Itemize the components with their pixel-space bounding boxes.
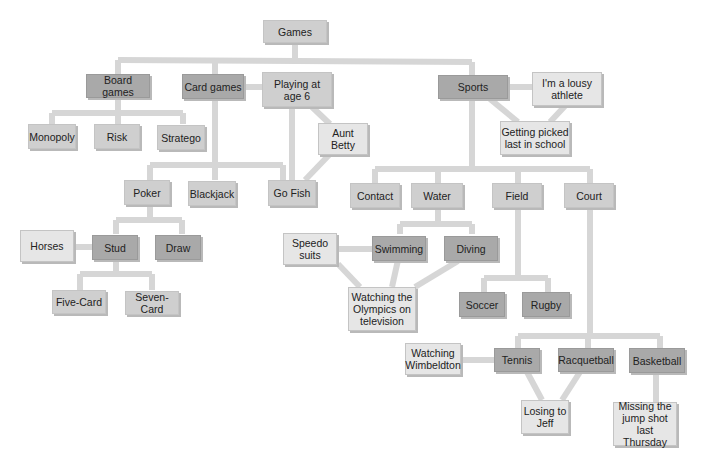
node-watching-wimbeldton: Watching Wimbeldton — [405, 343, 461, 375]
node-stratego: Stratego — [157, 125, 205, 150]
node-games: Games — [263, 20, 327, 43]
node-missing-jump-shot: Missing the jump shot last Thursday — [613, 402, 677, 446]
node-swimming: Swimming — [372, 236, 426, 261]
node-field: Field — [492, 183, 542, 208]
node-seven-card: Seven-Card — [125, 291, 179, 315]
node-water: Water — [411, 183, 463, 208]
node-five-card: Five-Card — [52, 290, 106, 314]
node-monopoly: Monopoly — [28, 124, 76, 149]
node-aunt-betty: Aunt Betty — [318, 123, 368, 155]
node-contact: Contact — [350, 183, 400, 208]
node-sports: Sports — [438, 75, 508, 99]
node-board-games: Board games — [86, 74, 150, 98]
node-draw: Draw — [155, 235, 201, 260]
node-lousy-athlete: I'm a lousy athlete — [532, 72, 602, 106]
node-risk: Risk — [94, 124, 140, 149]
node-rugby: Rugby — [522, 292, 570, 317]
node-poker: Poker — [124, 180, 170, 205]
node-go-fish: Go Fish — [268, 180, 316, 206]
node-basketball: Basketball — [629, 348, 685, 373]
node-losing-to-jeff: Losing to Jeff — [521, 400, 569, 434]
node-court: Court — [564, 183, 614, 208]
node-picked-last: Getting picked last in school — [500, 121, 570, 155]
node-speedo-suits: Speedo suits — [283, 233, 337, 265]
node-soccer: Soccer — [459, 292, 505, 317]
node-tennis: Tennis — [494, 348, 540, 372]
node-horses: Horses — [20, 230, 74, 262]
node-stud: Stud — [92, 235, 138, 260]
node-racquetball: Racquetball — [558, 348, 614, 372]
node-card-games: Card games — [182, 74, 244, 99]
connector-lines — [0, 0, 714, 457]
node-diving: Diving — [444, 236, 498, 261]
node-playing-at-age-6: Playing at age 6 — [262, 72, 332, 107]
node-blackjack: Blackjack — [188, 181, 236, 206]
node-watching-olympics: Watching the Olympics on television — [348, 287, 416, 331]
